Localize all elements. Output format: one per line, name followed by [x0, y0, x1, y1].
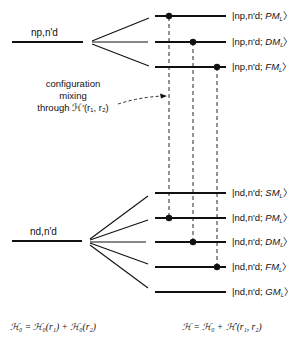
configuration-mixing-dashes	[169, 17, 217, 267]
ket-nd-nd-F: |nd,n'd; FML〉	[232, 261, 292, 276]
label-nd-nd: nd,n'd	[30, 226, 57, 238]
mixing-annotation-line2: mixing	[18, 90, 128, 102]
formula-unperturbed-hamiltonian: ℋ₀ = ℋ₀(r₁) + ℋ₀(r₂)	[10, 321, 96, 332]
ket-nd-nd-P: |nd,n'd; PML〉	[232, 212, 293, 227]
ket-nd-nd-D: |nd,n'd; DML〉	[232, 236, 293, 251]
arrowhead-icon	[160, 94, 167, 99]
ket-np-nd-D: |np,n'd; DML〉	[232, 36, 293, 51]
ket-np-nd-F: |np,n'd; FML〉	[232, 61, 292, 76]
ket-np-nd-P: |np,n'd; PML〉	[232, 10, 293, 25]
ket-nd-nd-S: |nd,n'd; SML〉	[232, 187, 293, 202]
mixing-annotation-line1: configuration	[18, 78, 128, 90]
mixing-annotation-line3: through ℋ′(r₁, r₂)	[18, 102, 128, 114]
label-np-nd: np,n'd	[31, 27, 58, 39]
upper-splitting-lines	[92, 18, 149, 66]
lower-splitting-lines	[90, 196, 148, 288]
formula-full-hamiltonian: ℋ = ℋ₀ + ℋ′(r₁, r₂)	[182, 321, 262, 332]
ket-nd-nd-G: |nd,n'd; GML〉	[232, 286, 294, 301]
